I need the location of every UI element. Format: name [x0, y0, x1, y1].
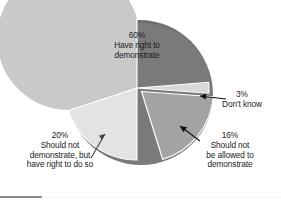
- pie-label-not-allowed: 16% Should not be allowed to demonstrate: [182, 131, 278, 170]
- footer-hairline: [42, 197, 281, 198]
- pie-label-dont-know: 3% Don't know: [205, 90, 279, 110]
- pie-label-have-right: 60% Have right to demonstrate: [78, 31, 196, 60]
- pie-label-should-not-demonstrate: 20% Should not demonstrate, but have rig…: [2, 131, 118, 170]
- footer-divider: [0, 196, 42, 198]
- pie-chart-figure: 60% Have right to demonstrate 3% Don't k…: [0, 0, 281, 207]
